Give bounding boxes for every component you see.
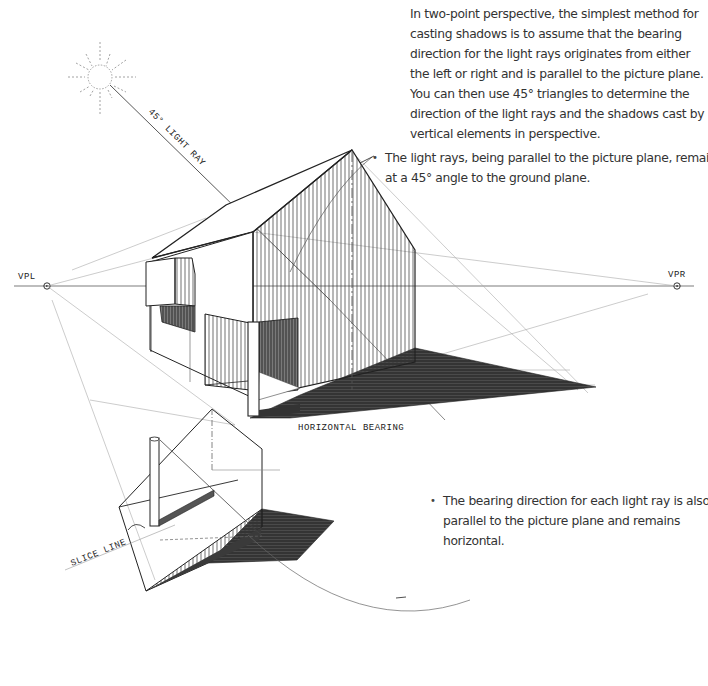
intro-paragraph: In two-point perspective, the simplest m… bbox=[410, 4, 706, 144]
sloping-surface-diagram bbox=[65, 409, 470, 611]
note-bearing-direction: The bearing direction for each light ray… bbox=[430, 491, 708, 551]
intro-text: In two-point perspective, the simplest m… bbox=[410, 4, 706, 144]
sun-icon bbox=[68, 42, 136, 115]
horizontal-bearing-label: HORIZONTAL BEARING bbox=[298, 423, 404, 433]
light-ray-label: 45° LIGHT RAY bbox=[146, 107, 207, 168]
vpl-label: VPL bbox=[18, 272, 36, 282]
porch-post bbox=[248, 322, 259, 416]
note-bearing-direction-text: The bearing direction for each light ray… bbox=[443, 491, 708, 551]
note-light-rays: The light rays, being parallel to the pi… bbox=[372, 148, 708, 188]
slice-line-label: SLICE LINE bbox=[69, 537, 127, 568]
vpr-label: VPR bbox=[668, 270, 686, 280]
note-light-rays-text: The light rays, being parallel to the pi… bbox=[385, 148, 708, 188]
